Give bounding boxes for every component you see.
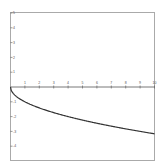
chart: 1234567891054321-1-2-3-4 bbox=[0, 0, 162, 165]
y-tick-label: -3 bbox=[13, 130, 16, 134]
x-tick-label: 10 bbox=[153, 81, 157, 85]
y-tick-label: 3 bbox=[13, 41, 15, 45]
x-tick-label: 6 bbox=[96, 81, 98, 85]
y-tick-label: 4 bbox=[13, 26, 15, 30]
x-tick-label: 7 bbox=[110, 81, 112, 85]
x-tick-label: 8 bbox=[125, 81, 127, 85]
x-tick-label: 9 bbox=[139, 81, 141, 85]
x-tick-label: 5 bbox=[82, 81, 84, 85]
x-tick-label: 4 bbox=[67, 81, 69, 85]
x-tick-label: 2 bbox=[38, 81, 40, 85]
x-tick-label: 3 bbox=[53, 81, 55, 85]
y-tick-label: -4 bbox=[13, 144, 16, 148]
y-tick-label: 5 bbox=[13, 11, 15, 15]
y-tick-label: 2 bbox=[13, 56, 15, 60]
y-tick-label: -1 bbox=[13, 100, 16, 104]
y-tick-label: -2 bbox=[13, 115, 16, 119]
x-tick-label: 1 bbox=[24, 81, 26, 85]
y-tick-label: 1 bbox=[13, 70, 15, 74]
